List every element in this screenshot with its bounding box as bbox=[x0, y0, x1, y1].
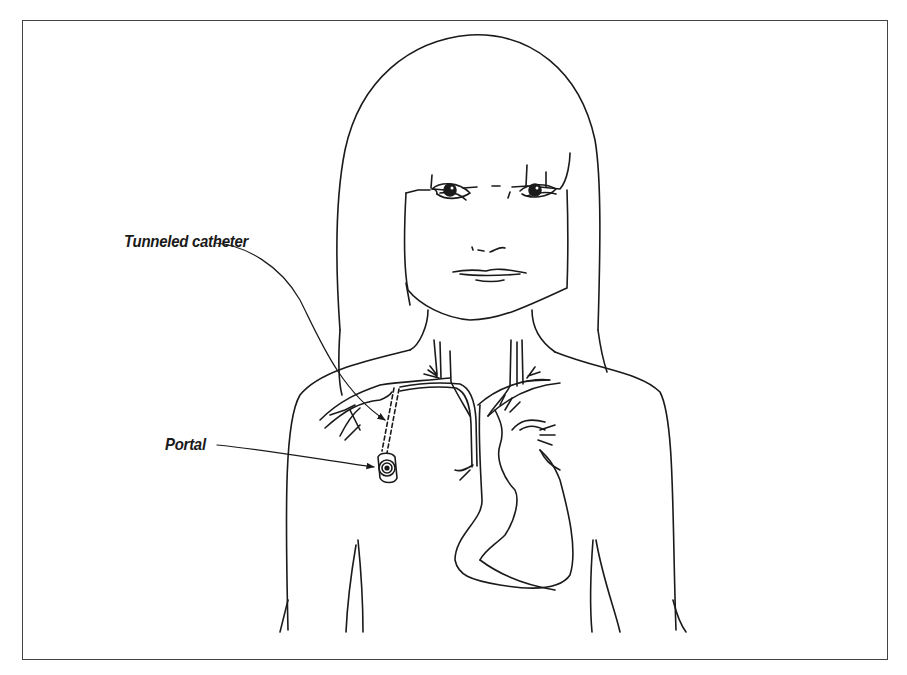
hair-outline bbox=[337, 35, 607, 395]
left-eye bbox=[432, 184, 470, 199]
nose-bridge bbox=[508, 192, 510, 198]
bangs bbox=[406, 153, 570, 193]
nose bbox=[472, 247, 505, 252]
anatomy-illustration bbox=[0, 0, 907, 675]
label-tunneled-catheter: Tunneled catheter bbox=[124, 232, 248, 252]
mouth bbox=[453, 269, 526, 281]
label-portal: Portal bbox=[165, 435, 206, 455]
port-device bbox=[378, 453, 397, 482]
neck bbox=[410, 310, 555, 352]
portal-leader-arrow bbox=[217, 445, 374, 467]
tunneled-catheter bbox=[400, 383, 477, 467]
heart bbox=[455, 395, 573, 590]
face-outline bbox=[404, 190, 567, 320]
